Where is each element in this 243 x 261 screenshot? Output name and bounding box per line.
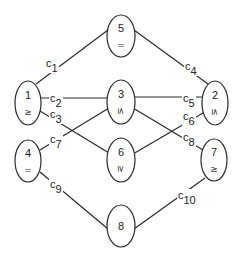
edge-label: c2 <box>49 92 63 109</box>
edge-label: c6 <box>182 110 196 127</box>
edge-labels-layer: c1c4c2c5c3c7c8c6c9c10 <box>45 57 198 206</box>
edge-label-subscript: 7 <box>56 138 62 150</box>
edge-label-subscript: 6 <box>189 115 195 127</box>
node-8: 8 <box>107 205 135 247</box>
node-operator-label: ≥ <box>24 107 32 117</box>
node-id-label: 6 <box>118 146 124 158</box>
node-operator-label: ≥ <box>116 165 126 173</box>
edge-label-subscript: 8 <box>189 136 195 148</box>
node-6: 6≥ <box>107 138 135 182</box>
edge-label: c10 <box>177 189 197 206</box>
edge-label-subscript: 4 <box>191 65 197 77</box>
edge-label-subscript: 9 <box>56 183 62 195</box>
constraint-graph-diagram: c1c4c2c5c3c7c8c6c9c10 1≥2≤3≤4=5=6≥7≥8 <box>0 0 243 261</box>
node-5: 5= <box>107 15 135 57</box>
node-id-label: 1 <box>25 89 31 101</box>
node-operator-label: ≥ <box>210 164 218 174</box>
node-2: 2≤ <box>202 81 228 125</box>
node-ellipse <box>107 80 135 124</box>
edge-label-subscript: 5 <box>189 97 195 109</box>
node-operator-label: = <box>24 165 32 175</box>
edge-label: c5 <box>182 92 196 109</box>
node-operator-label: ≤ <box>210 108 220 116</box>
node-id-label: 4 <box>25 147 31 159</box>
edge-label: c4 <box>184 60 198 77</box>
node-id-label: 5 <box>118 22 124 34</box>
edge-label-subscript: 10 <box>184 194 196 206</box>
edge-label: c3 <box>49 108 63 125</box>
edge-label: c9 <box>49 178 63 195</box>
node-7: 7≥ <box>201 139 227 181</box>
node-1: 1≥ <box>15 81 41 125</box>
edge-label-subscript: 2 <box>56 97 62 109</box>
node-id-label: 7 <box>211 146 217 158</box>
edge-label: c7 <box>49 133 63 150</box>
nodes-layer: 1≥2≤3≤4=5=6≥7≥8 <box>15 15 228 247</box>
edge-label-subscript: 1 <box>52 62 58 74</box>
node-ellipse <box>107 138 135 182</box>
node-id-label: 3 <box>118 88 124 100</box>
node-ellipse <box>15 81 41 125</box>
node-operator-label: ≤ <box>116 107 126 115</box>
edge-label: c1 <box>45 57 59 74</box>
node-id-label: 2 <box>212 89 218 101</box>
node-ellipse <box>202 81 228 125</box>
node-operator-label: = <box>117 40 125 50</box>
node-id-label: 8 <box>118 220 124 232</box>
edge-label-subscript: 3 <box>56 113 62 125</box>
node-3: 3≤ <box>107 80 135 124</box>
node-4: 4= <box>15 140 41 182</box>
edge-label: c8 <box>182 131 196 148</box>
